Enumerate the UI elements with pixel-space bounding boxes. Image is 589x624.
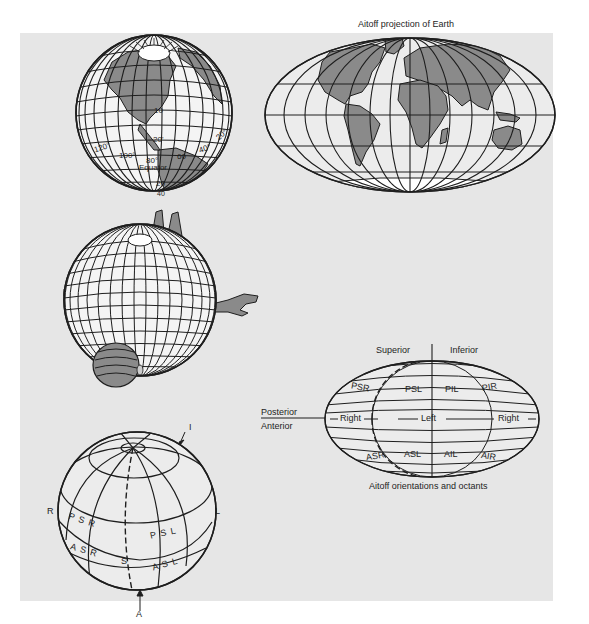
inferior-label: Inferior (450, 346, 478, 355)
aitoff-octant-map (261, 344, 539, 477)
aitoff-earth-title: Aitoff projection of Earth (358, 20, 454, 29)
octant-psl-label: PSL (405, 385, 422, 394)
anterior-label: Anterior (261, 422, 293, 431)
head-globe (64, 210, 258, 387)
lon-label-60: 60 (177, 153, 186, 161)
right-left-label: Right (340, 414, 361, 423)
superior-label: Superior (376, 346, 410, 355)
lat-label-10: 10 (154, 107, 163, 115)
right-right-label: Right (498, 414, 519, 423)
octant-s-label: S (121, 557, 127, 566)
octant-globe-bottom-label: A (136, 610, 142, 619)
posterior-label: Posterior (261, 408, 297, 417)
aitoff-octants-title: Aitoff orientations and octants (369, 482, 487, 491)
octant-globe-top-label: I (189, 423, 192, 432)
lon-label-100: 100° (119, 152, 136, 160)
octant-asl-label: ASL (404, 450, 421, 459)
octant-pil-label: PIL (445, 385, 459, 394)
octant-globe-right-label: L (215, 507, 220, 516)
left-center-label: Left (421, 414, 436, 423)
octant-ail-label: AIL (444, 450, 458, 459)
lat-label-20s: 20 (156, 180, 165, 188)
aitoff-earth-map (265, 38, 555, 194)
right-hand-icon (212, 294, 258, 316)
equator-label: Equator (139, 164, 167, 172)
lat-label-40s: 40 (157, 190, 165, 197)
figure-artwork (0, 0, 589, 624)
lat-label-20n: 20' (153, 136, 163, 144)
octant-globe-left-label: R (47, 507, 54, 516)
